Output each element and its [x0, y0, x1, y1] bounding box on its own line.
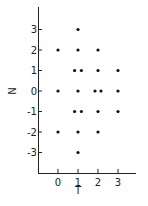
data-point	[56, 89, 59, 92]
y-tick-label: -2	[27, 127, 37, 138]
axes	[38, 7, 136, 174]
x-tick-label: 0	[55, 177, 61, 188]
x-axis-label: T	[74, 185, 82, 196]
data-point	[93, 89, 96, 92]
data-point	[96, 48, 99, 51]
y-tick-label: 3	[31, 24, 37, 35]
y-tick-label: 2	[31, 45, 37, 56]
data-point	[76, 151, 79, 154]
data-point	[73, 69, 76, 72]
x-tick-label: 2	[95, 177, 101, 188]
data-point	[96, 110, 99, 113]
y-ticks: 3210-1-2-3	[27, 24, 42, 158]
data-point	[80, 110, 83, 113]
y-tick-label: 0	[31, 86, 37, 97]
data-point	[73, 110, 76, 113]
x-tick-label: 3	[115, 177, 121, 188]
x-ticks: 0123	[55, 169, 121, 188]
y-axis-label: N	[7, 87, 18, 94]
scatter-chart: 0123 3210-1-2-3 T N	[0, 0, 148, 206]
data-point	[99, 89, 102, 92]
data-point	[96, 69, 99, 72]
y-tick-label: 1	[31, 65, 37, 76]
data-point	[76, 130, 79, 133]
y-tick-label: -1	[27, 106, 37, 117]
data-point	[76, 48, 79, 51]
data-point	[76, 89, 79, 92]
data-point	[116, 89, 119, 92]
data-points	[56, 28, 119, 154]
data-point	[56, 48, 59, 51]
data-point	[96, 130, 99, 133]
data-point	[76, 28, 79, 31]
data-point	[56, 130, 59, 133]
data-point	[80, 69, 83, 72]
data-point	[116, 69, 119, 72]
data-point	[116, 110, 119, 113]
y-tick-label: -3	[27, 147, 37, 158]
